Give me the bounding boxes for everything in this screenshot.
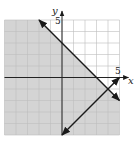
x-axis-label: x bbox=[128, 75, 134, 86]
y-axis-label: y bbox=[51, 5, 58, 16]
x-tick-label: 5 bbox=[115, 66, 121, 76]
y-tick-label: 5 bbox=[55, 16, 61, 26]
plot-area bbox=[5, 11, 129, 135]
graph: x y 5 5 bbox=[0, 0, 137, 148]
